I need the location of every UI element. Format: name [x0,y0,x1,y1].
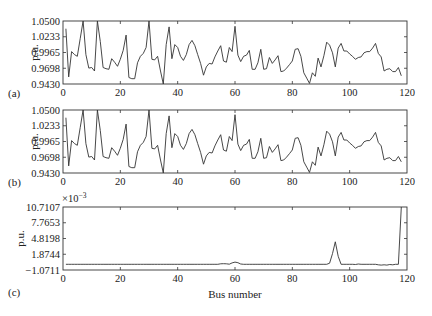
x-tick-label: 80 [287,176,298,187]
x-tick-label: 60 [230,273,241,284]
y-tick-label: 1.0233 [31,120,60,131]
panel-label-c: (c) [8,286,21,299]
y-axis-label-b: p.u. [28,133,40,150]
x-tick-label: 100 [342,176,358,187]
x-tick-label: 0 [60,273,65,284]
x-tick-label: 120 [399,273,415,284]
y-tick-label: 4.8198 [31,233,60,244]
y-tick-label: 1.0500 [31,16,60,27]
x-tick-label: 60 [230,176,241,187]
y-tick-label: 7.7653 [31,217,60,228]
y-axis-label-c: p.u. [14,230,26,247]
x-tick-label: 120 [399,176,415,187]
panel-label-a: (a) [8,87,21,100]
difference-line-c [66,207,401,265]
y-ticks-b: 1.05001.02330.99650.96980.9430 [31,105,407,179]
x-tick-label: 60 [230,87,241,98]
x-tick-label: 20 [115,273,126,284]
x-tick-label: 80 [287,273,298,284]
x-tick-label: 120 [399,87,415,98]
y-tick-label: 1.0233 [31,31,60,42]
scale-exponent: −3 [78,191,86,200]
x-tick-label: 0 [60,176,65,187]
panel-c: 10.71077.76534.81981.8744−1.0711 0204060… [8,191,415,300]
y-ticks-a: 1.05001.02330.99650.96980.9430 [31,16,407,90]
plot-frame-b [63,110,407,173]
x-ticks-c: 020406080100120 [60,207,415,284]
figure: 1.05001.02330.99650.96980.9430 020406080… [0,0,432,316]
y-tick-label: 10.7107 [26,202,60,213]
panel-label-b: (b) [8,176,21,189]
x-tick-label: 40 [172,87,183,98]
x-tick-label: 20 [115,176,126,187]
voltage-line-a [66,21,401,84]
x-tick-label: 80 [287,87,298,98]
x-tick-label: 0 [60,87,65,98]
plot-frame-c [63,207,407,270]
x-tick-label: 100 [342,87,358,98]
scale-base: ×10 [62,193,78,204]
y-tick-label: −1.0711 [26,265,60,276]
y-scale-multiplier: ×10−3 [62,191,87,204]
y-tick-label: 1.0500 [31,105,60,116]
x-axis-label: Bus number [208,288,262,300]
y-tick-label: 0.9430 [31,168,60,179]
y-tick-label: 0.9698 [31,63,60,74]
y-tick-label: 1.8744 [31,249,61,260]
y-axis-label-a: p.u. [28,44,40,61]
x-tick-label: 40 [172,176,183,187]
x-ticks-a: 020406080100120 [60,21,415,98]
x-tick-label: 100 [342,273,358,284]
voltage-line-b [66,110,401,173]
x-ticks-b: 020406080100120 [60,110,415,187]
y-tick-label: 0.9430 [31,79,60,90]
panel-a: 1.05001.02330.99650.96980.9430 020406080… [8,16,415,101]
x-tick-label: 20 [115,87,126,98]
y-tick-label: 0.9698 [31,152,60,163]
x-tick-label: 40 [172,273,183,284]
panel-b: 1.05001.02330.99650.96980.9430 020406080… [8,105,415,190]
